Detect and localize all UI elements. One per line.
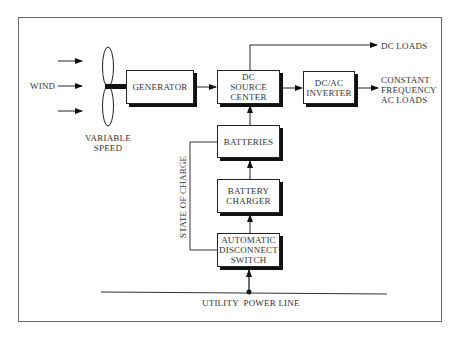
- utility-power-line-label: UTILITY POWER LINE: [202, 298, 296, 308]
- ac-loads-label: CONSTANT FREQUENCY AC LOADS: [381, 75, 437, 105]
- battery-charger-block: BATTERY CHARGER: [217, 179, 280, 213]
- inverter-block: DC/AC INVERTER: [303, 71, 355, 104]
- dc-source-center-block: DC SOURCE CENTER: [217, 70, 280, 104]
- wind-label: WIND: [30, 81, 55, 91]
- batteries-block: BATTERIES: [217, 125, 280, 158]
- state-of-charge-label: STATE OF CHARGE: [178, 156, 188, 238]
- disconnect-switch-block: AUTOMATIC DISCONNECT SWITCH: [217, 233, 280, 267]
- generator-block: GENERATOR: [126, 70, 194, 104]
- variable-speed-label: VARIABLE SPEED: [85, 133, 131, 153]
- dc-loads-label: DC LOADS: [381, 41, 427, 51]
